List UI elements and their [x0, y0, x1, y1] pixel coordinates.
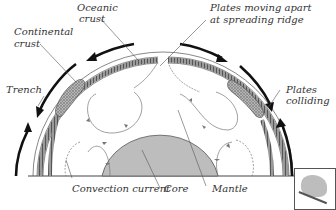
label-mantle: Mantle: [212, 183, 248, 194]
continental-crust-left: [55, 79, 84, 116]
label-continental-crust-line1: Continental: [14, 26, 73, 37]
label-plates-colliding-line2: colliding: [286, 95, 330, 106]
corner-thumbnail: [294, 168, 336, 210]
label-continental-crust-line2: crust: [14, 38, 40, 49]
subducting-slab-right: [262, 120, 272, 176]
label-oceanic-crust-line1: Oceanic: [77, 2, 118, 13]
core: [102, 135, 218, 176]
label-trench: Trench: [6, 84, 42, 95]
ridge-line-left: [134, 62, 158, 88]
label-convection-current: Convection current: [72, 183, 170, 194]
ridge-line-right: [168, 62, 200, 92]
label-plates-moving-apart-line2: at spreading ridge: [210, 14, 304, 25]
label-core: Core: [164, 183, 188, 194]
label-plates-moving-apart-line1: Plates moving apart: [210, 2, 312, 13]
label-plates-colliding-line1: Plates: [286, 84, 317, 95]
label-oceanic-crust-line2: crust: [79, 13, 105, 24]
